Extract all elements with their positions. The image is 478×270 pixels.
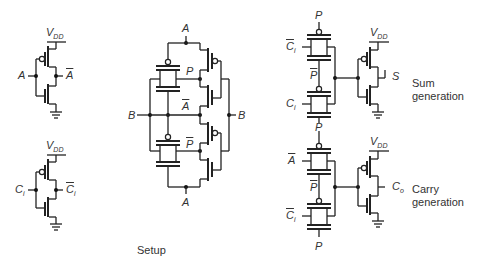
inverter-a-vdd-label: VDD — [46, 27, 63, 40]
propagate-a-bottom-label: A — [182, 197, 189, 208]
inverter-a-input-label: A — [18, 70, 25, 81]
sum-ci-bar-label: Ci — [286, 41, 296, 54]
carry-ci-bar-label: Ci — [286, 210, 296, 223]
propagate-b-left-label: B — [128, 110, 135, 121]
sum-caption: Sumgeneration — [412, 77, 464, 103]
carry-a-bar-label: A — [288, 155, 295, 166]
propagate-p-label: P — [186, 66, 193, 77]
carry-p-bottom-label: P — [315, 241, 322, 252]
propagate-a-bar-label: A — [182, 101, 189, 112]
sum-vdd-label: VDD — [370, 27, 387, 40]
sum-p-bar-label: P — [310, 70, 317, 81]
setup-caption: Setup — [137, 244, 166, 257]
inverter-ci — [28, 155, 66, 230]
carry-output-label: Co — [392, 181, 404, 194]
carry-caption: Carrygeneration — [412, 183, 464, 209]
carry-p-bar-label: P — [310, 182, 317, 193]
sum-ci-label: Ci — [286, 98, 296, 111]
propagate-p-bar-label: P — [186, 139, 193, 150]
carry-vdd-label: VDD — [370, 136, 387, 149]
propagate-network — [137, 36, 236, 194]
propagate-a-top-label: A — [182, 23, 189, 34]
carry-p-mid-label: P — [315, 122, 322, 133]
sum-p-top-label: P — [315, 10, 322, 21]
inverter-ci-input-label: Ci — [15, 184, 25, 197]
sum-output-label: S — [392, 71, 399, 82]
inverter-a — [28, 42, 66, 118]
circuit-diagram — [0, 0, 478, 270]
propagate-b-right-label: B — [238, 110, 245, 121]
inverter-a-output-label: A — [66, 70, 73, 81]
inverter-ci-vdd-label: VDD — [46, 140, 63, 153]
inverter-ci-output-label: Ci — [66, 184, 76, 197]
